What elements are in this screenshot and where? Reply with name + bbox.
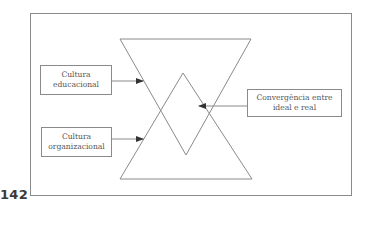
box-convergencia: Convergência entre ideal e real bbox=[247, 89, 342, 117]
top-inverted-triangle bbox=[120, 39, 251, 155]
box-cultura-educacional: Cultura educacional bbox=[40, 65, 112, 95]
box-cultura-organizacional: Cultura organizacional bbox=[41, 127, 112, 157]
bottom-upright-triangle bbox=[120, 73, 252, 179]
box-convergencia-line2: ideal e real bbox=[273, 103, 316, 113]
box-cultura-organizacional-line1: Cultura bbox=[62, 132, 91, 142]
box-convergencia-line1: Convergência entre bbox=[256, 93, 332, 103]
box-cultura-organizacional-line2: organizacional bbox=[48, 142, 105, 152]
box-cultura-educacional-line1: Cultura bbox=[61, 70, 90, 80]
box-cultura-educacional-line2: educacional bbox=[53, 80, 99, 90]
page-number: 142 bbox=[0, 187, 28, 202]
